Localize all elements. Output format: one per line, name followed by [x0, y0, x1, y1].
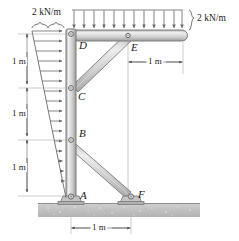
dimension-label-dc: 1 m [11, 57, 27, 66]
joint-label-f: F [138, 189, 145, 200]
dimension-label-base: 1 m [91, 223, 107, 232]
load-brace-right [189, 10, 194, 30]
joint-pin-e [126, 33, 130, 37]
dimension-label-beam: 1 m [147, 57, 163, 66]
joint-pin-c [69, 86, 74, 91]
load-uniform-vertical [72, 10, 183, 28]
load-brace-left [32, 22, 64, 28]
joint-label-c: C [78, 91, 85, 102]
joint-label-a: A [80, 190, 87, 201]
joint-label-d: D [79, 40, 87, 51]
load-triangular-horizontal [32, 31, 66, 198]
joint-label-b: B [79, 128, 86, 139]
ground [38, 203, 200, 217]
joint-pin-b [69, 138, 74, 143]
load-label-vertical: 2 kN/m [197, 14, 226, 24]
frame-diagram [0, 0, 239, 241]
member-column [66, 29, 76, 200]
dimension-label-cb: 1 m [11, 109, 27, 118]
figure-canvas: 2 kN/m 2 kN/m D E C B A F 1 m 1 m 1 m 1 … [0, 0, 239, 241]
dimension-label-ba: 1 m [11, 163, 27, 172]
load-label-horizontal: 2 kN/m [32, 8, 61, 18]
joint-label-e: E [131, 42, 138, 53]
joint-pin-d [69, 32, 74, 37]
